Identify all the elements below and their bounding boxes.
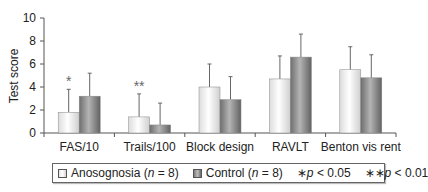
- y-tick-label: 4: [29, 80, 36, 94]
- x-tick-label: FAS/10: [60, 140, 100, 154]
- bar-chart: 0246810 FAS/10Trails/100Block designRAVL…: [0, 0, 411, 160]
- bar: [220, 100, 241, 133]
- legend: Anosognosia (n = 8) Control (n = 8) ∗p <…: [52, 163, 385, 183]
- x-tick-label: Block design: [186, 140, 254, 154]
- legend-anosognosia-label: Anosognosia: [71, 166, 140, 180]
- bar: [58, 112, 79, 133]
- legend-control-n: (n = 8): [248, 166, 283, 180]
- control-swatch: [193, 169, 202, 178]
- y-tick-label: 10: [23, 11, 37, 25]
- bar: [290, 57, 311, 133]
- x-tick-label: Trails/100: [123, 140, 176, 154]
- legend-control-label: Control: [206, 166, 245, 180]
- bar: [361, 78, 382, 133]
- y-axis-label: Test score: [7, 48, 21, 103]
- x-tick-label: RAVLT: [272, 140, 310, 154]
- bar: [340, 70, 361, 133]
- bars: ***: [58, 34, 382, 133]
- bar: [79, 96, 100, 133]
- x-tick-label: Benton vis rent: [321, 140, 402, 154]
- bar: [150, 125, 171, 133]
- legend-item-control: Control (n = 8): [193, 166, 283, 180]
- y-tick-label: 6: [29, 57, 36, 71]
- bar: [129, 117, 150, 133]
- bar: [269, 79, 290, 133]
- y-tick-label: 2: [29, 103, 36, 117]
- y-tick-label: 0: [29, 126, 36, 140]
- legend-sig-005: ∗p < 0.05: [297, 166, 351, 180]
- significance-marker: *: [66, 73, 72, 89]
- x-axis: FAS/10Trails/100Block designRAVLTBenton …: [44, 133, 401, 154]
- legend-anosognosia-n: (n = 8): [144, 166, 179, 180]
- y-axis: 0246810: [23, 11, 44, 140]
- legend-sig-001: ∗∗p < 0.01: [365, 166, 428, 180]
- legend-item-anosognosia: Anosognosia (n = 8): [58, 166, 179, 180]
- y-tick-label: 8: [29, 34, 36, 48]
- anosognosia-swatch: [58, 169, 67, 178]
- significance-marker: **: [134, 78, 145, 94]
- bar: [199, 87, 220, 133]
